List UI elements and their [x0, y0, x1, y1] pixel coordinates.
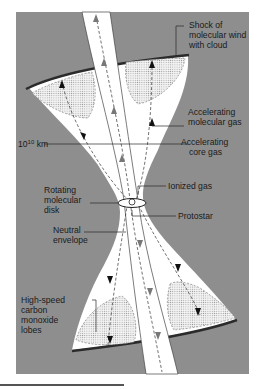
- label-ionized-gas: Ionized gas: [168, 181, 212, 191]
- label-accelerating-core-gas: Acceleratingcore gas: [181, 137, 229, 157]
- label-accelerating-molecular-gas: Acceleratingmolecular gas: [188, 107, 242, 127]
- bottom-rule: [0, 384, 124, 386]
- protostar: [129, 199, 135, 205]
- bipolar-outflow-figure: Shock ofmolecular windwith cloud Acceler…: [0, 0, 262, 389]
- label-protostar: Protostar: [178, 211, 213, 221]
